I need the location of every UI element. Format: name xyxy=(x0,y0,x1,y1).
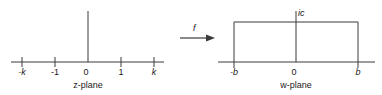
w-plane-caption: w-plane xyxy=(280,81,312,90)
mapping-arrow-group xyxy=(180,35,215,42)
z-plane-label-minus-k: -k xyxy=(18,68,26,77)
z-plane-label-minus-1: -1 xyxy=(51,68,59,77)
z-plane-label-1: 1 xyxy=(118,68,123,77)
w-plane-group xyxy=(218,11,375,68)
z-plane-label-origin: 0 xyxy=(83,68,88,77)
mapping-arrow-head xyxy=(206,35,215,42)
z-plane-label-k: k xyxy=(152,68,157,77)
figure-container: -k -1 0 1 k z-plane f ic -b 0 b w-plane xyxy=(0,0,382,95)
w-plane-height-label: ic xyxy=(298,9,305,18)
w-plane-label-b: b xyxy=(355,68,360,77)
w-plane-label-origin: 0 xyxy=(291,68,296,77)
figure-linework xyxy=(0,0,382,95)
z-plane-caption: z-plane xyxy=(73,81,103,90)
mapping-function-label: f xyxy=(193,24,196,33)
z-plane-group xyxy=(11,11,164,67)
w-plane-label-minus-b: -b xyxy=(230,68,238,77)
